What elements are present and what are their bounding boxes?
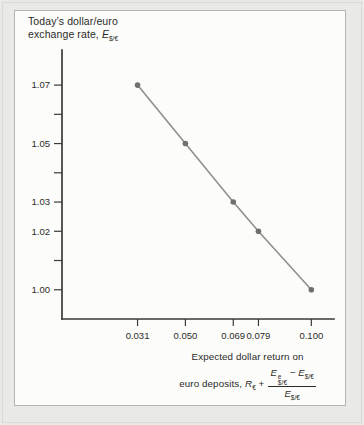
y-axis-title-line2: exchange rate, E$/€ — [28, 28, 118, 45]
data-point — [135, 82, 141, 88]
x-axis-ticks: 0.0310.0500.0690.0790.100 — [126, 319, 324, 341]
x-axis-title-line2: euro deposits, R€ + Ee$/€ − E$/€ E$/€ — [145, 367, 350, 403]
y-tick-label: 1.00 — [32, 284, 51, 295]
exchange-rate-symbol-sub: $/€ — [109, 35, 118, 42]
fraction-denominator: E$/€ — [284, 387, 299, 403]
y-tick-label: 1.02 — [32, 226, 51, 237]
x-axis-title-line1: Expected dollar return on — [145, 350, 350, 363]
y-tick-label: 1.05 — [32, 138, 51, 149]
expected-depreciation-fraction: Ee$/€ − E$/€ E$/€ — [268, 367, 315, 403]
x-tick-label: 0.069 — [221, 330, 245, 341]
x-tick-label: 0.031 — [126, 330, 150, 341]
minus-sign: − — [290, 367, 296, 378]
data-point — [256, 228, 262, 234]
data-point — [183, 141, 189, 147]
fraction-numerator: Ee$/€ − E$/€ — [268, 367, 315, 387]
exchange-rate-symbol: E — [102, 28, 109, 40]
y-axis-title-line1: Today’s dollar/euro — [28, 15, 118, 28]
euro-return-symbol-sub: € — [252, 383, 256, 390]
euro-deposits-text: euro deposits, — [179, 378, 245, 389]
x-tick-label: 0.050 — [174, 330, 198, 341]
y-axis-ticks: 1.001.021.031.051.07 — [32, 79, 63, 295]
data-point — [230, 199, 236, 205]
x-tick-label: 0.079 — [247, 330, 271, 341]
y-tick-label: 1.03 — [32, 196, 51, 207]
current-rate-sub: $/€ — [305, 373, 314, 380]
x-tick-label: 0.100 — [299, 330, 323, 341]
expected-rate-supsub: e$/€ — [278, 374, 287, 385]
data-point — [309, 287, 315, 293]
y-axis-title-line2-text: exchange rate, — [28, 28, 102, 40]
x-axis-title-line2-text: euro deposits, R€ + — [179, 377, 264, 394]
y-axis-title: Today’s dollar/euro exchange rate, E$/€ — [28, 15, 118, 45]
expected-rate-symbol: E — [270, 367, 276, 378]
y-tick-label: 1.07 — [32, 79, 51, 90]
x-axis-title: Expected dollar return on euro deposits,… — [145, 350, 350, 403]
return-schedule-line — [138, 85, 312, 290]
expected-rate-sub: $/€ — [278, 380, 287, 386]
plus-sign: + — [259, 378, 265, 389]
denominator-rate-sub: $/€ — [291, 394, 300, 401]
